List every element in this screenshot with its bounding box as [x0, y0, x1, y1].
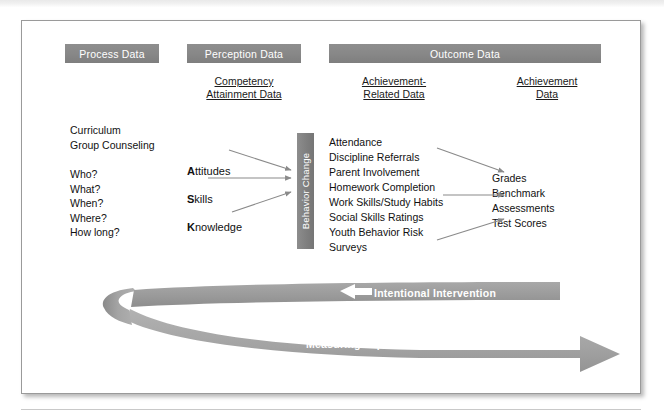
- column-header-ach-related-line2: Related Data: [363, 88, 424, 100]
- ribbon-label-measuring-impact: Measuring Impact of Intervention: [306, 338, 479, 350]
- behavior-change-bar-label: Behavior Change: [297, 133, 314, 249]
- header-bar-process-data-label: Process Data: [79, 48, 144, 60]
- achievement-data-list: Grades Benchmark Assessments Test Scores: [492, 171, 554, 231]
- column-header-competency-line2: Attainment Data: [206, 88, 281, 100]
- process-data-activities-list: Curriculum Group Counseling: [70, 123, 155, 152]
- competency-item-skills: Skills: [187, 193, 213, 205]
- process-data-questions-list: Who? What? When? Where? How long?: [70, 167, 120, 240]
- header-bar-outcome-data-label: Outcome Data: [430, 48, 500, 60]
- column-header-achievement-line2: Data: [536, 88, 558, 100]
- competency-item-knowledge-initial: K: [187, 221, 195, 233]
- competency-item-attitudes-initial: A: [187, 165, 195, 177]
- column-header-competency-line1: Competency: [215, 75, 274, 87]
- behavior-change-bar: Behavior Change: [297, 133, 314, 249]
- competency-item-knowledge-rest: nowledge: [195, 221, 242, 233]
- competency-item-attitudes: Attitudes: [187, 165, 230, 177]
- header-bar-perception-data-label: Perception Data: [205, 48, 283, 60]
- competency-item-skills-rest: kills: [194, 193, 212, 205]
- header-bar-perception-data: Perception Data: [187, 44, 301, 63]
- header-bar-outcome-data: Outcome Data: [329, 44, 601, 63]
- competency-item-attitudes-rest: ttitudes: [195, 165, 230, 177]
- column-header-achievement-data: Achievement Data: [492, 75, 602, 101]
- column-header-ach-related-line1: Achievement-: [362, 75, 426, 87]
- competency-item-knowledge: Knowledge: [187, 221, 242, 233]
- column-header-achievement-line1: Achievement: [517, 75, 578, 87]
- page-top-strip: [0, 0, 664, 7]
- column-header-competency-attainment-data: Competency Attainment Data: [187, 75, 301, 101]
- achievement-related-data-list: Attendance Discipline Referrals Parent I…: [329, 135, 443, 255]
- header-bar-process-data: Process Data: [65, 44, 159, 63]
- page-bottom-rule: [21, 409, 641, 410]
- column-header-achievement-related-data: Achievement- Related Data: [329, 75, 459, 101]
- ribbon-label-intentional-intervention: Intentional Intervention: [374, 287, 496, 299]
